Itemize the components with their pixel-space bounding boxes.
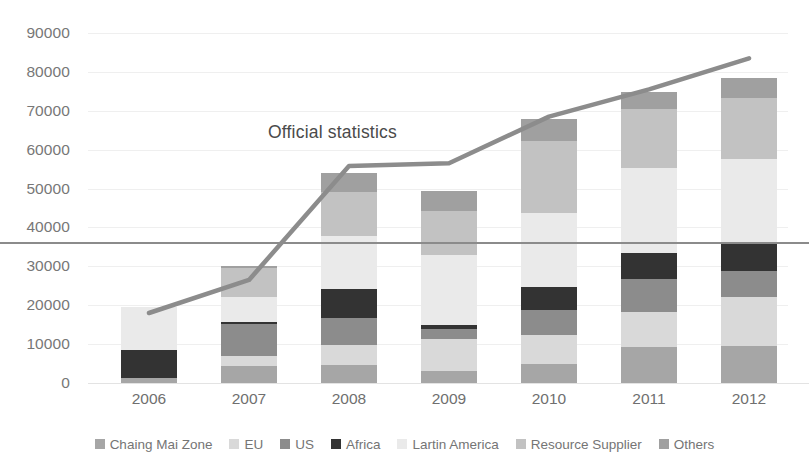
bar-segment-lartin-america [521,213,577,287]
gridline [88,33,788,34]
legend-swatch-icon [331,439,341,449]
bar-segment-others [621,92,677,110]
gridline [88,72,788,73]
bar-segment-resource-supplier [721,98,777,158]
legend-swatch-icon [397,439,407,449]
bar-segment-eu [721,297,777,346]
x-tick-label-2007: 2007 [204,390,294,408]
y-tick-label: 60000 [26,141,70,159]
bar-segment-resource-supplier [521,141,577,213]
bar-segment-us [221,324,277,356]
bar-segment-us [621,279,677,312]
bar-segment-lartin-america [121,307,177,351]
bar-segment-resource-supplier [621,109,677,167]
bar-segment-chaing-mai-zone [721,346,777,383]
bar-segment-eu [221,356,277,367]
bar-segment-eu [621,312,677,347]
bar-segment-lartin-america [421,255,477,325]
bar-segment-eu [521,335,577,364]
bar-segment-chaing-mai-zone [621,347,677,383]
x-tick-label-2011: 2011 [604,390,694,408]
reference-line [0,242,809,244]
legend-swatch-icon [659,439,669,449]
y-tick-label: 40000 [26,218,70,236]
bar-segment-others [221,266,277,267]
legend-label: Chaing Mai Zone [110,437,213,452]
axis-baseline [88,383,809,384]
bar-segment-chaing-mai-zone [421,371,477,383]
y-tick-label: 10000 [26,335,70,353]
x-tick-label-2009: 2009 [404,390,494,408]
bar-segment-chaing-mai-zone [521,364,577,383]
bar-segment-resource-supplier [421,211,477,256]
annotation-official-statistics: Official statistics [268,122,397,143]
legend-label: Africa [346,437,381,452]
bar-2009 [421,191,477,384]
bar-segment-others [521,119,577,141]
legend-item-lartin-america[interactable]: Lartin America [397,437,498,452]
bar-segment-others [721,78,777,99]
y-tick-label: 0 [61,374,70,392]
legend: Chaing Mai ZoneEUUSAfricaLartin AmericaR… [0,432,809,456]
bar-2007 [221,266,277,383]
legend-swatch-icon [516,439,526,449]
bar-segment-others [321,173,377,192]
x-axis: 2006200720082009201020112012 [88,390,788,416]
y-tick-label: 80000 [26,63,70,81]
bar-segment-africa [621,253,677,279]
legend-label: EU [244,437,263,452]
bar-segment-africa [721,244,777,271]
y-tick-label: 50000 [26,180,70,198]
y-tick-label: 30000 [26,257,70,275]
bar-segment-chaing-mai-zone [221,366,277,383]
plot-area [88,33,788,383]
x-tick-label-2006: 2006 [104,390,194,408]
bar-segment-africa [421,325,477,328]
y-tick-label: 90000 [26,24,70,42]
bar-segment-resource-supplier [321,192,377,237]
bar-segment-lartin-america [621,168,677,254]
bar-segment-us [521,310,577,335]
legend-swatch-icon [280,439,290,449]
x-tick-label-2012: 2012 [704,390,794,408]
bar-segment-africa [121,350,177,378]
bar-segment-lartin-america [221,297,277,322]
bar-2010 [521,119,577,383]
x-tick-label-2008: 2008 [304,390,394,408]
bar-segment-chaing-mai-zone [321,365,377,383]
bar-2011 [621,92,677,383]
bar-segment-eu [421,339,477,372]
chart-figure: 0100002000030000400005000060000700008000… [0,0,809,458]
bar-segment-others [421,191,477,211]
legend-item-chaing-mai-zone[interactable]: Chaing Mai Zone [95,437,213,452]
bar-segment-africa [221,322,277,324]
legend-item-resource-supplier[interactable]: Resource Supplier [516,437,642,452]
bar-segment-us [321,318,377,345]
legend-item-others[interactable]: Others [659,437,715,452]
legend-label: Others [674,437,715,452]
bar-segment-eu [321,345,377,364]
gridline [88,150,788,151]
bar-segment-africa [521,287,577,310]
legend-item-us[interactable]: US [280,437,314,452]
bar-segment-africa [321,289,377,318]
legend-item-africa[interactable]: Africa [331,437,381,452]
y-axis: 0100002000030000400005000060000700008000… [0,0,80,384]
legend-swatch-icon [229,439,239,449]
bar-segment-us [421,329,477,339]
legend-swatch-icon [95,439,105,449]
legend-label: US [295,437,314,452]
bar-segment-lartin-america [721,159,777,245]
legend-label: Lartin America [412,437,498,452]
bar-2008 [321,173,377,383]
bar-2006 [121,307,177,383]
x-tick-label-2010: 2010 [504,390,594,408]
gridline [88,111,788,112]
y-tick-label: 20000 [26,296,70,314]
bar-segment-us [721,271,777,297]
y-tick-label: 70000 [26,102,70,120]
legend-item-eu[interactable]: EU [229,437,263,452]
bar-segment-resource-supplier [221,268,277,298]
bar-2012 [721,78,777,383]
legend-label: Resource Supplier [531,437,642,452]
